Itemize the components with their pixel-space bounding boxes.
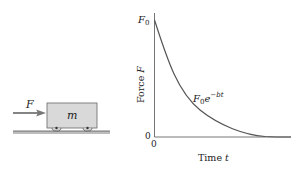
x-axis-label: Time t: [198, 152, 229, 163]
y-axis-label: Force F: [135, 66, 146, 103]
x-tick-zero: 0: [151, 139, 157, 149]
force-label: F: [25, 98, 34, 111]
decay-curve: [155, 20, 292, 137]
curve-label: F0e−bt: [192, 91, 224, 106]
y-tick-f0: F0: [137, 14, 149, 27]
ground-surface: [13, 131, 110, 134]
mass-label: m: [67, 109, 77, 122]
diagram-canvas: F m F0 0 0 F0e−bt Time t Force F: [0, 0, 303, 171]
